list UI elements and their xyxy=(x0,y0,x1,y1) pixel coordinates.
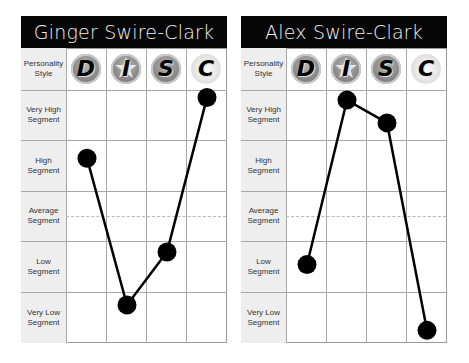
c-style-icon: C xyxy=(411,54,441,84)
c-glyph: C xyxy=(418,54,434,84)
row-label-low: Low Segment xyxy=(241,241,286,292)
average-midline xyxy=(66,216,226,217)
average-midline xyxy=(286,216,446,217)
s-glyph: S xyxy=(378,54,394,84)
row-label-very-high: Very High Segment xyxy=(21,90,66,140)
grid-line xyxy=(366,48,367,343)
grid-line xyxy=(66,48,67,343)
header-label: Personality Style xyxy=(241,48,286,90)
s-style-icon: S xyxy=(371,54,401,84)
row-label-low: Low Segment xyxy=(21,241,66,292)
grid-line xyxy=(106,48,107,343)
i-glyph: I xyxy=(122,54,130,84)
grid-line xyxy=(406,48,407,343)
row-label-average: Average Segment xyxy=(21,191,66,241)
d-glyph: D xyxy=(77,54,95,84)
row-label-average: Average Segment xyxy=(241,191,286,241)
grid-line xyxy=(286,48,287,343)
panel-title: Ginger Swire-Clark xyxy=(21,16,227,48)
d-style-icon: D xyxy=(71,54,101,84)
d-glyph: D xyxy=(297,54,315,84)
grid-line xyxy=(326,48,327,343)
s-glyph: S xyxy=(158,54,174,84)
row-label-very-low: Very Low Segment xyxy=(21,292,66,343)
i-glyph: I xyxy=(342,54,350,84)
row-label-very-high: Very High Segment xyxy=(241,90,286,140)
s-style-icon: S xyxy=(151,54,181,84)
row-label-high: High Segment xyxy=(241,140,286,191)
i-style-icon: I xyxy=(331,54,361,84)
c-style-icon: C xyxy=(191,54,221,84)
row-label-very-low: Very Low Segment xyxy=(241,292,286,343)
grid-line xyxy=(186,48,187,343)
grid-line xyxy=(146,48,147,343)
disc-panel-ginger: Ginger Swire-Clark Personality Style Ver… xyxy=(21,16,227,344)
disc-panel-alex: Alex Swire-Clark Personality Style Very … xyxy=(241,16,447,344)
i-style-icon: I xyxy=(111,54,141,84)
header-label: Personality Style xyxy=(21,48,66,90)
c-glyph: C xyxy=(198,54,214,84)
d-style-icon: D xyxy=(291,54,321,84)
panel-title: Alex Swire-Clark xyxy=(241,16,447,48)
row-label-high: High Segment xyxy=(21,140,66,191)
